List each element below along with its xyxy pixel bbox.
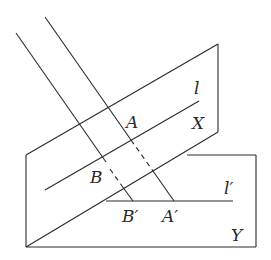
label-point-a-prime: A′ — [160, 206, 178, 226]
ray-a-visible — [153, 171, 174, 201]
label-plane-y: Y — [231, 225, 244, 245]
label-l-prime: l′ — [224, 178, 233, 198]
label-point-b-prime: B′ — [121, 206, 138, 226]
line-l — [45, 101, 199, 190]
label-l: l — [194, 78, 199, 98]
ray-b-visible — [122, 186, 133, 201]
ray-b-solid — [16, 33, 106, 162]
plane-x-top-edge — [26, 44, 218, 155]
ray-b-dashed — [110, 169, 122, 186]
label-point-a: A — [124, 112, 138, 132]
projection-ray-a — [45, 17, 174, 201]
plane-x-bottom-edge — [26, 132, 218, 247]
label-plane-x: X — [190, 113, 205, 133]
ray-a-solid — [45, 17, 131, 140]
projection-diagram: l X A B l′ B′ A′ Y — [0, 0, 271, 260]
ray-a-dashed — [131, 140, 153, 171]
label-point-b: B — [89, 167, 103, 187]
